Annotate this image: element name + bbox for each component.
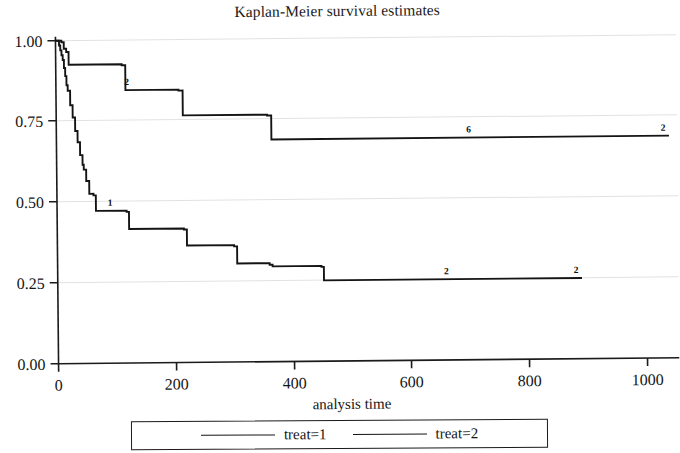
x-tick-label-1: 200 (165, 375, 189, 392)
x-axis-tick-labels: 0 200 400 600 800 1000 (55, 371, 664, 394)
x-tick-label-4: 800 (518, 372, 542, 389)
censor-count-treat-1-2: 2 (574, 265, 579, 275)
y-axis-ticks (47, 41, 58, 364)
legend-entry-treat-1[interactable]: treat=1 (201, 426, 327, 444)
y-tick-label-3: 0.75 (15, 113, 43, 130)
survival-curves (55, 35, 670, 283)
legend-line-icon-treat-2 (352, 433, 426, 434)
survival-curve-treat-1 (55, 36, 582, 283)
y-axis-tick-labels: 1.00 0.75 0.50 0.25 0.00 (14, 33, 45, 373)
axes (55, 31, 679, 364)
y-tick-label-4: 1.00 (14, 33, 42, 50)
censor-count-treat-2-0: 2 (124, 77, 129, 87)
chart-canvas: 1.00 0.75 0.50 0.25 0.00 0 200 400 600 (0, 0, 680, 418)
x-tick-label-3: 600 (400, 373, 424, 390)
plot-area-wrapper: Kaplan-Meier survival estimates (0, 0, 680, 453)
x-axis-line (59, 358, 680, 364)
censor-count-treat-2-2: 2 (661, 123, 666, 133)
censoring-labels: 122262 (106, 72, 667, 280)
legend-label-treat-1: treat=1 (284, 426, 327, 443)
gridline-1.00 (55, 35, 676, 41)
x-tick-label-5: 1000 (632, 371, 664, 388)
gridline-0.50 (57, 196, 678, 202)
y-tick-label-2: 0.50 (16, 194, 44, 211)
survival-curve-treat-2 (55, 35, 668, 142)
x-tick-label-0: 0 (55, 377, 63, 394)
y-tick-label-0: 0.00 (17, 356, 45, 373)
legend-line-icon-treat-1 (201, 434, 275, 435)
x-tick-label-2: 400 (283, 374, 307, 391)
gridlines (55, 35, 678, 283)
censor-count-treat-1-0: 1 (108, 198, 113, 208)
y-tick-label-1: 0.25 (17, 275, 45, 292)
y-axis-line (55, 37, 58, 364)
chart-legend: treat=1 treat=2 (131, 419, 548, 451)
legend-label-treat-2: treat=2 (435, 425, 478, 442)
censor-count-treat-1-1: 2 (444, 266, 449, 276)
legend-entry-treat-2[interactable]: treat=2 (352, 425, 478, 443)
gridline-0.75 (56, 115, 677, 121)
censor-count-treat-2-1: 6 (466, 125, 471, 135)
x-axis-label: analysis time (313, 396, 392, 413)
